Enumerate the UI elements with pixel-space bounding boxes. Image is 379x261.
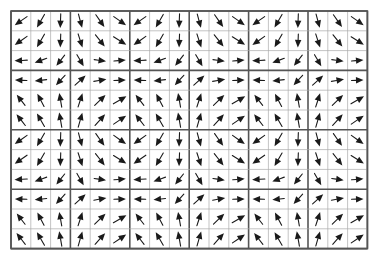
arrow-shaft (332, 178, 336, 179)
arrow-shaft (332, 60, 336, 61)
arrow-shaft (213, 60, 217, 61)
vector-field-figure (0, 0, 379, 261)
arrow-shaft (94, 60, 98, 61)
arrow-shaft (213, 178, 217, 179)
arrow-shaft (94, 178, 98, 179)
vector-field-canvas (0, 0, 379, 261)
